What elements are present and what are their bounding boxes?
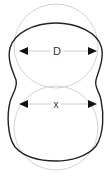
peanut-shape-diagram: D x (0, 0, 111, 179)
arrow-left-icon (19, 47, 28, 55)
x-label: x (54, 99, 59, 110)
peanut-outline (8, 23, 103, 161)
d-label: D (53, 45, 61, 57)
arrow-right-icon (88, 47, 97, 55)
x-dimension: x (19, 99, 97, 110)
d-dimension: D (19, 45, 97, 57)
